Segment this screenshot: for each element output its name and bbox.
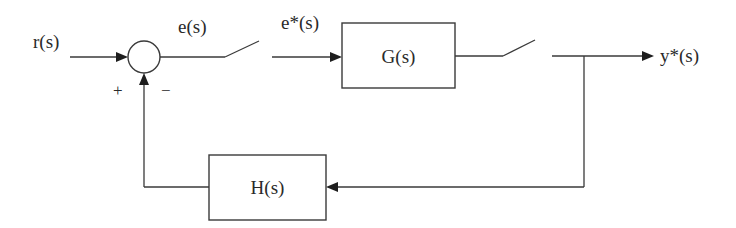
arrowhead-icon bbox=[116, 52, 128, 62]
g-input-arrow bbox=[272, 52, 342, 62]
plus-sign: + bbox=[113, 81, 123, 100]
output-sampler-switch bbox=[455, 40, 535, 56]
summing-junction bbox=[128, 41, 160, 73]
output-label: y*(s) bbox=[660, 45, 699, 67]
sampled-error-label: e*(s) bbox=[281, 12, 319, 34]
minus-sign: − bbox=[161, 81, 171, 100]
arrowhead-icon bbox=[642, 51, 654, 61]
arrowhead-icon bbox=[330, 52, 342, 62]
error-sampler-switch bbox=[160, 41, 259, 57]
forward-block-label: G(s) bbox=[382, 46, 416, 68]
input-arrow bbox=[70, 52, 128, 62]
arrowhead-icon bbox=[326, 182, 338, 192]
error-label: e(s) bbox=[178, 16, 206, 38]
block-diagram: r(s) + − e(s) e*(s) G(s) y*(s) H(s) bbox=[0, 0, 736, 228]
feedback-block-label: H(s) bbox=[251, 177, 285, 199]
input-label: r(s) bbox=[33, 31, 59, 53]
arrowhead-icon bbox=[139, 73, 149, 85]
output-arrow bbox=[552, 51, 654, 61]
feedback-return bbox=[139, 73, 209, 187]
